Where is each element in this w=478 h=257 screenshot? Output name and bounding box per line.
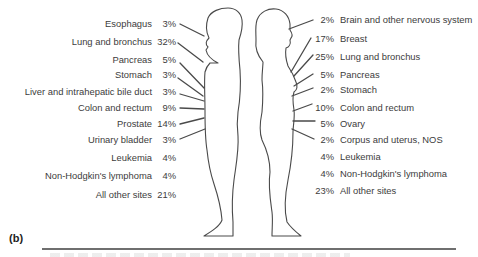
male-label-row: Stomach3%	[115, 69, 176, 80]
female-label-row: 2%Stomach	[312, 84, 377, 95]
female-label-row: 2%Corpus and uterus, NOS	[312, 134, 443, 145]
female-label-row: 4%Non-Hodgkin's lymphoma	[312, 168, 447, 179]
site-percent: 2%	[312, 84, 334, 95]
site-percent: 5%	[312, 118, 334, 129]
site-percent: 2%	[312, 14, 334, 25]
male-label-row: Urinary bladder3%	[88, 134, 176, 145]
male-label-row: Lung and bronchus32%	[72, 36, 176, 47]
site-name: Colon and rectum	[78, 102, 152, 113]
leader-brain	[289, 20, 313, 29]
site-name: Urinary bladder	[88, 134, 152, 145]
cancer-sites-diagram: Esophagus3% Lung and bronchus32% Pancrea…	[0, 0, 478, 257]
leader-prostate	[180, 118, 204, 124]
leader-colon-male	[180, 108, 204, 109]
male-body-outline	[204, 8, 242, 236]
leader-breast	[291, 38, 311, 72]
site-name: Esophagus	[105, 18, 152, 29]
site-name: All other sites	[96, 189, 152, 200]
male-label-row: Prostate14%	[117, 118, 176, 129]
site-name: Lung and bronchus	[72, 36, 152, 47]
panel-label: (b)	[9, 232, 23, 244]
site-name: Breast	[340, 33, 367, 44]
site-percent: 17%	[312, 33, 334, 44]
male-label-row: Non-Hodgkin's lymphoma4%	[45, 170, 176, 181]
site-percent: 3%	[152, 18, 176, 29]
male-label-row: Pancreas5%	[112, 54, 176, 65]
site-name: Pancreas	[112, 54, 152, 65]
site-name: Pancreas	[340, 69, 380, 80]
female-label-row: 4%Leukemia	[312, 151, 381, 162]
site-percent: 4%	[312, 151, 334, 162]
leader-pancreas-female	[294, 74, 313, 86]
site-name: Corpus and uterus, NOS	[340, 134, 443, 145]
site-percent: 5%	[152, 54, 176, 65]
leader-stomach-male	[178, 78, 203, 96]
male-label-row: All other sites21%	[96, 189, 176, 200]
site-percent: 3%	[152, 86, 176, 97]
site-name: Stomach	[340, 84, 377, 95]
site-name: Brain and other nervous system	[340, 14, 472, 25]
site-name: Non-Hodgkin's lymphoma	[340, 168, 447, 179]
site-name: Liver and intrahepatic bile duct	[25, 86, 152, 97]
female-label-row: 10%Colon and rectum	[312, 102, 414, 113]
leader-colon-female	[293, 104, 312, 111]
female-body-outline	[256, 9, 301, 236]
male-label-row: Esophagus3%	[105, 18, 176, 29]
leader-pancreas-male	[180, 63, 204, 88]
site-percent: 23%	[312, 185, 334, 196]
leader-stomach-female	[292, 88, 313, 96]
site-percent: 9%	[152, 102, 176, 113]
site-name: Leukemia	[340, 151, 381, 162]
site-name: Ovary	[340, 118, 365, 129]
leader-lines	[178, 20, 315, 139]
site-name: Prostate	[117, 118, 152, 129]
female-label-row: 17%Breast	[312, 33, 367, 44]
site-name: Colon and rectum	[340, 102, 414, 113]
female-label-row: 5%Ovary	[312, 118, 365, 129]
site-percent: 32%	[152, 36, 176, 47]
cut-off-caption-text	[50, 253, 350, 257]
female-label-row: 25%Lung and bronchus	[312, 51, 420, 62]
male-label-row: Liver and intrahepatic bile duct3%	[25, 86, 176, 97]
site-percent: 3%	[152, 69, 176, 80]
site-name: All other sites	[340, 185, 396, 196]
leader-lung-male	[178, 43, 203, 62]
site-percent: 14%	[152, 118, 176, 129]
site-percent: 3%	[152, 134, 176, 145]
site-percent: 4%	[152, 170, 176, 181]
site-name: Lung and bronchus	[340, 51, 420, 62]
male-label-row: Leukemia4%	[111, 152, 176, 163]
site-name: Leukemia	[111, 152, 152, 163]
divider-rule	[42, 248, 456, 250]
female-label-row: 5%Pancreas	[312, 69, 380, 80]
site-percent: 10%	[312, 102, 334, 113]
site-percent: 5%	[312, 69, 334, 80]
male-label-row: Colon and rectum9%	[78, 102, 176, 113]
female-label-row: 2%Brain and other nervous system	[312, 14, 472, 25]
leader-lung-female	[294, 55, 313, 76]
site-name: Non-Hodgkin's lymphoma	[45, 170, 152, 181]
leader-corpus-uterus	[292, 129, 314, 139]
leader-liver	[180, 94, 204, 101]
site-percent: 25%	[312, 51, 334, 62]
site-percent: 21%	[152, 189, 176, 200]
site-percent: 4%	[312, 168, 334, 179]
female-label-row: 23%All other sites	[312, 185, 396, 196]
site-percent: 2%	[312, 134, 334, 145]
site-percent: 4%	[152, 152, 176, 163]
leader-bladder	[180, 129, 205, 139]
leader-esophagus	[180, 24, 204, 36]
site-name: Stomach	[115, 69, 152, 80]
